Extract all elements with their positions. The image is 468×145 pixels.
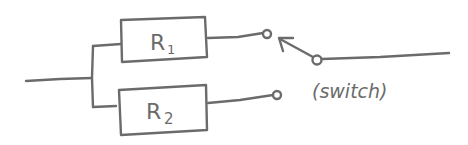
switch-contact-top xyxy=(263,30,271,38)
r1-subscript: 1 xyxy=(167,42,175,57)
output-wire xyxy=(322,53,449,59)
r1-output-wire xyxy=(208,33,263,38)
switch-label: (switch) xyxy=(312,80,387,102)
branch-r2-in xyxy=(93,106,116,107)
switch-arm xyxy=(280,39,313,57)
input-wire xyxy=(26,78,92,81)
r1-label: R xyxy=(150,30,165,55)
resistor-r2: R 2 xyxy=(119,85,207,135)
resistor-r1: R 1 xyxy=(121,17,207,62)
branch-r1-in xyxy=(93,44,121,46)
parallel-junction xyxy=(92,46,93,107)
r2-label: R xyxy=(146,99,161,124)
circuit-diagram: R 1 R 2 (switch) xyxy=(0,0,468,145)
r2-output-wire xyxy=(208,95,273,103)
r2-subscript: 2 xyxy=(164,110,174,128)
